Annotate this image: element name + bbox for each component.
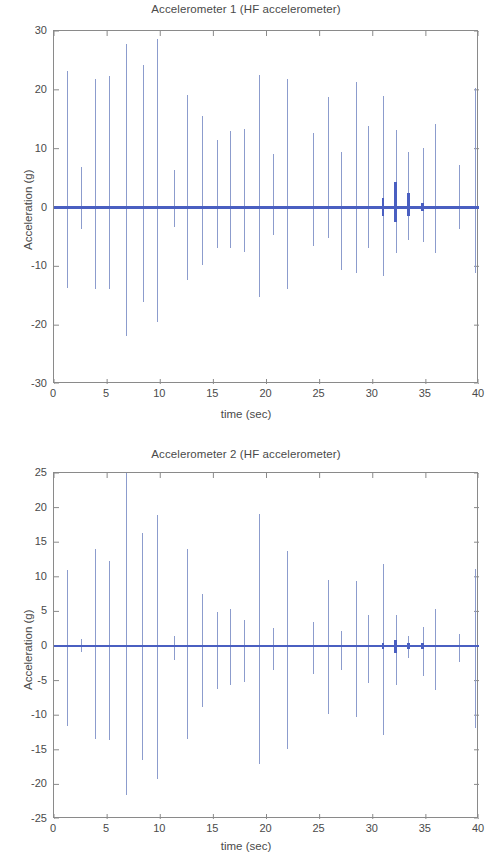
x-axis-tick-label: 25 — [313, 387, 325, 399]
data-plot — [54, 473, 479, 819]
y-axis-tick-label: 0 — [7, 201, 47, 213]
y-axis-tick-label: 20 — [7, 83, 47, 95]
chart-title: Accelerometer 1 (HF accelerometer) — [0, 3, 492, 15]
y-axis-tick-label: 30 — [7, 24, 47, 36]
chart-accelerometer-1: Accelerometer 1 (HF accelerometer) Accel… — [0, 0, 492, 430]
x-axis-tick-label: 0 — [50, 387, 56, 399]
y-axis-tick-label: 10 — [7, 142, 47, 154]
y-axis-tick-label: 20 — [7, 501, 47, 513]
data-plot — [54, 31, 479, 384]
y-axis-tick-label: 10 — [7, 570, 47, 582]
x-axis-tick-label: 30 — [366, 822, 378, 834]
y-axis-tick-label: -10 — [7, 259, 47, 271]
x-axis-tick-label: 5 — [103, 387, 109, 399]
chart-title: Accelerometer 2 (HF accelerometer) — [0, 448, 492, 460]
plot-area — [53, 30, 478, 383]
y-axis-tick-label: 15 — [7, 535, 47, 547]
y-axis-tick-label: -30 — [7, 377, 47, 389]
y-axis-tick-label: -25 — [7, 812, 47, 824]
x-axis-tick-label: 20 — [259, 822, 271, 834]
y-axis-tick-label: -20 — [7, 777, 47, 789]
plot-area — [53, 472, 478, 818]
x-axis-tick-label: 15 — [206, 822, 218, 834]
x-axis-tick-label: 20 — [259, 387, 271, 399]
x-axis-tick-label: 40 — [472, 387, 484, 399]
x-axis-tick-label: 30 — [366, 387, 378, 399]
x-axis-tick-label: 5 — [103, 822, 109, 834]
y-axis-tick-label: 5 — [7, 604, 47, 616]
x-axis-tick-label: 35 — [419, 822, 431, 834]
y-axis-tick-label: -15 — [7, 743, 47, 755]
x-axis-tick-label: 10 — [153, 822, 165, 834]
x-axis-tick-label: 0 — [50, 822, 56, 834]
x-axis-tick-label: 15 — [206, 387, 218, 399]
x-axis-tick-label: 35 — [419, 387, 431, 399]
x-axis-tick-label: 10 — [153, 387, 165, 399]
y-axis-tick-label: 0 — [7, 639, 47, 651]
x-axis-label: time (sec) — [0, 840, 492, 852]
chart-accelerometer-2: Accelerometer 2 (HF accelerometer) Accel… — [0, 430, 492, 859]
figure-page: Accelerometer 1 (HF accelerometer) Accel… — [0, 0, 492, 859]
y-axis-tick-label: 25 — [7, 466, 47, 478]
x-axis-tick-label: 40 — [472, 822, 484, 834]
y-axis-tick-label: -5 — [7, 674, 47, 686]
y-axis-tick-label: -20 — [7, 318, 47, 330]
y-axis-tick-label: -10 — [7, 708, 47, 720]
x-axis-tick-label: 25 — [313, 822, 325, 834]
x-axis-label: time (sec) — [0, 408, 492, 420]
